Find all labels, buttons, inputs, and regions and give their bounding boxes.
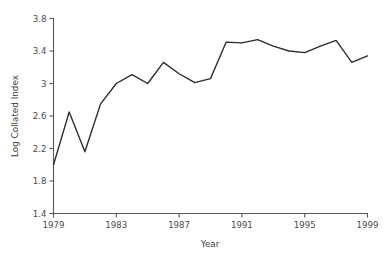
y-tick-label: 1.8 bbox=[33, 176, 47, 186]
x-tick-label: 1999 bbox=[357, 220, 379, 230]
x-tick-label: 1995 bbox=[294, 220, 316, 230]
y-tick-label: 2.2 bbox=[33, 144, 47, 154]
y-tick-label: 2.6 bbox=[33, 111, 47, 121]
x-axis-title: Year bbox=[200, 239, 220, 249]
x-tick-label: 1987 bbox=[168, 220, 190, 230]
y-axis-title: Log Collated Index bbox=[10, 75, 20, 157]
y-tick-label: 3.4 bbox=[33, 46, 47, 56]
line-chart-canvas: 1.41.82.22.633.43.8 19791983198719911995… bbox=[0, 0, 385, 253]
x-tick-label: 1979 bbox=[43, 220, 65, 230]
x-tick-label: 1991 bbox=[231, 220, 253, 230]
y-tick-label: 3 bbox=[41, 79, 46, 89]
chart-background bbox=[0, 0, 385, 253]
x-tick-label: 1983 bbox=[105, 220, 127, 230]
y-tick-label: 3.8 bbox=[33, 14, 47, 24]
y-tick-label: 1.4 bbox=[33, 209, 47, 219]
